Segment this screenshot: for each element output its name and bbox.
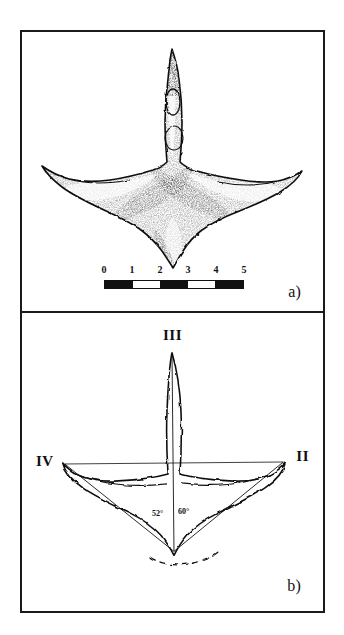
- panel-b: III IV II 52° 60° b): [22, 313, 323, 611]
- scale-tick-0: 0: [102, 264, 107, 276]
- scale-tick-2: 2: [158, 264, 163, 276]
- panel-a: 0 1 2 3 4 5 a): [22, 32, 323, 313]
- scale-segment: [215, 281, 243, 288]
- interdigital-angle-III-IV: 52°: [152, 509, 163, 518]
- scale-bar: 0 1 2 3 4 5: [104, 264, 244, 289]
- interdigital-angle-II-III: 60°: [178, 507, 189, 516]
- outline-footprint-illustration: [22, 313, 323, 611]
- panel-a-label: a): [288, 283, 301, 301]
- scale-tick-1: 1: [130, 264, 135, 276]
- scale-bar-ticks: 0 1 2 3 4 5: [104, 264, 244, 278]
- panel-b-label: b): [287, 577, 301, 595]
- scale-segment: [133, 281, 161, 288]
- scale-segment: [188, 281, 216, 288]
- scale-tick-3: 3: [186, 264, 191, 276]
- digit-label-IV: IV: [36, 453, 54, 470]
- scale-segment: [160, 281, 188, 288]
- footprint-outline: [63, 353, 286, 565]
- scale-segment: [105, 281, 133, 288]
- digit-label-III: III: [163, 327, 182, 344]
- scale-tick-4: 4: [214, 264, 219, 276]
- digit-axis-lines: [65, 355, 284, 552]
- digit-label-II: II: [296, 448, 309, 465]
- figure-plate: 0 1 2 3 4 5 a): [20, 30, 325, 613]
- scale-tick-5: 5: [242, 264, 247, 276]
- scale-bar-segments: [104, 280, 244, 289]
